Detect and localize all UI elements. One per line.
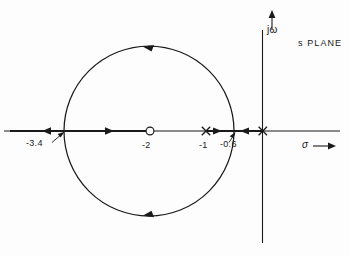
direction-arrow-toward-zero (105, 127, 114, 135)
s-plane-label: s PLANE (298, 39, 342, 48)
sigma-arrow-icon (313, 143, 336, 150)
direction-arrow-from-pole-minus-one (213, 127, 222, 134)
root-locus-plot (0, 0, 349, 256)
direction-arrow-from-pole-origin (240, 127, 249, 134)
axis-label-minus-0-6: -0.6 (220, 140, 237, 149)
axis-label-minus-3-4: -3.4 (26, 139, 43, 148)
root-locus-figure: -3.4 -2 -1 -0.6 jω σ s PLANE (0, 0, 349, 256)
axis-label-minus-1: -1 (199, 141, 208, 150)
leader-line-minus-3-4 (52, 132, 65, 143)
zero-marker-minus-two (146, 127, 154, 135)
axis-label-minus-2: -2 (142, 141, 151, 150)
real-axis-label: σ (302, 140, 308, 150)
imaginary-axis-label: jω (267, 25, 278, 35)
direction-arrow-left (42, 127, 51, 135)
